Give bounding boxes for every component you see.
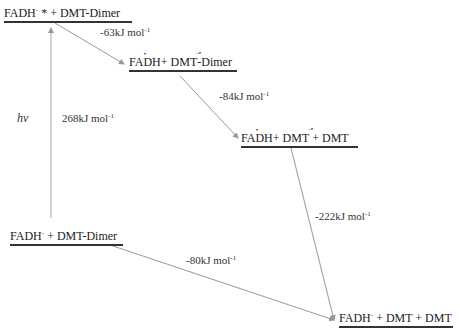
arrow-split-to-product [291,148,334,320]
radical-dot: FADH [241,131,273,145]
energy-label-80: -80kJ mol-1 [186,254,236,266]
arrow-radical-pair-to-split [180,76,238,138]
energy-label-222: -222kJ mol-1 [315,210,371,222]
level-product: FADH- + DMT + DMT [339,308,453,328]
photon-symbol: hν [17,111,28,126]
energy-label-63: -63kJ mol-1 [100,26,150,38]
radical-dot: FADH [129,55,161,69]
level-excited: FADH- * + DMT-Dimer [4,3,132,23]
radical-anion-mark: + DMT [273,131,309,145]
level-ground: FADH- + DMT-Dimer [10,226,123,246]
radical-anion-mark: + DMT [161,55,197,69]
level-radical-pair: FADH + DMT-Dimer [129,55,237,72]
transition-lines [0,0,460,331]
energy-label-84: -84kJ mol-1 [219,90,269,102]
energy-label-excitation: 268kJ mol-1 [62,112,114,124]
level-split-radical: FADH + DMT + DMT [241,131,358,148]
